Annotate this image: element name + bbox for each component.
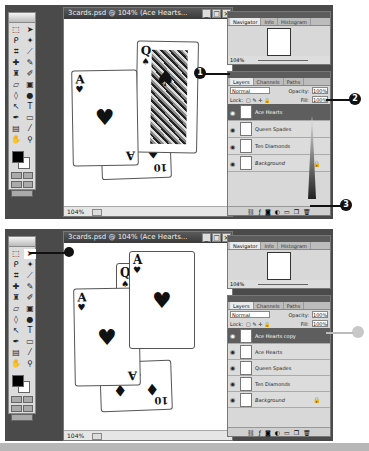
move-tool-icon[interactable]: ➤ [24,25,36,35]
layer-row[interactable]: ◉ Queen Spades [228,360,330,376]
tab-layers[interactable]: Layers [230,78,254,85]
brush-tool-icon[interactable]: ✎ [24,282,36,292]
zoom-tool-icon[interactable]: ⚲ [24,135,36,145]
minimize-button[interactable]: _ [202,9,211,18]
crop-tool-icon[interactable]: ⌗ [10,271,22,281]
quickmask-mode-button[interactable] [23,396,34,403]
opacity-input[interactable]: 100% [312,87,328,94]
layer-row[interactable]: ◉ Background 🔒 [228,392,330,408]
zoom-level[interactable]: 104% [67,208,84,215]
path-select-tool-icon[interactable]: ↖ [10,326,22,336]
notes-tool-icon[interactable]: ▤ [10,124,22,134]
path-select-tool-icon[interactable]: ↖ [10,102,22,112]
eraser-tool-icon[interactable]: ▱ [10,304,22,314]
move-tool-icon[interactable]: ➤ [24,249,36,259]
tab-channels[interactable]: Channels [254,78,284,85]
tab-histogram[interactable]: Histogram [278,18,311,25]
eye-icon[interactable]: ◉ [230,126,237,133]
new-group-icon[interactable]: ▭ [284,428,290,436]
standard-mode-button[interactable] [11,172,22,179]
layer-row[interactable]: ◉ Ace Hearts [228,344,330,360]
gradient-tool-icon[interactable]: ▣ [24,80,36,90]
canvas[interactable]: ♦ ♦ ♦ 10 Q ♠ ♠ A ♥ ♥ A [64,19,232,206]
add-mask-icon[interactable]: ◙ [265,207,271,215]
lock-icons[interactable]: ▢ ✎ ✛ 🔒 [246,97,270,103]
lasso-tool-icon[interactable]: ᑭ [10,36,22,46]
eye-icon[interactable]: ◉ [230,364,237,371]
blur-tool-icon[interactable]: ◊ [10,91,22,101]
new-group-icon[interactable]: ▭ [284,207,290,215]
maximize-button[interactable]: □ [212,9,221,18]
delete-layer-icon[interactable]: 🗑 [303,428,311,436]
type-tool-icon[interactable]: T [24,326,36,336]
eye-icon[interactable]: ◉ [230,143,237,150]
toolbox-header[interactable] [9,13,35,23]
slice-tool-icon[interactable]: ⟋ [24,47,36,57]
eye-icon[interactable]: ◉ [230,396,237,403]
status-menu-button[interactable] [92,433,102,440]
tab-info[interactable]: Info [261,242,277,249]
history-brush-tool-icon[interactable]: ✐ [24,69,36,79]
layer-row[interactable]: ◉ Ten Diamonds [228,376,330,392]
jump-to-imageready-button[interactable] [11,414,33,421]
navigator-zoom[interactable]: 104% [230,57,244,63]
shape-tool-icon[interactable]: ▭ [24,337,36,347]
eyedropper-tool-icon[interactable]: ⁄ [24,124,36,134]
zoom-level[interactable]: 104% [67,432,84,439]
foreground-color-swatch[interactable] [12,151,24,163]
new-layer-icon[interactable]: ❐ [294,428,299,436]
lock-icons[interactable]: ▢ ✎ ✛ 🔒 [246,321,270,327]
status-menu-button[interactable] [92,209,102,216]
foreground-color-swatch[interactable] [12,375,24,387]
eraser-tool-icon[interactable]: ▱ [10,80,22,90]
blend-mode-select[interactable]: Normal [230,311,270,318]
tab-layers[interactable]: Layers [230,302,254,309]
new-layer-icon[interactable]: ❐ [294,207,299,215]
document-title-bar[interactable]: 3cards.psd @ 104% (Ace Hearts... _ □ × [64,8,232,19]
healing-tool-icon[interactable]: ✚ [10,58,22,68]
link-layers-icon[interactable]: ⛓ [247,207,255,215]
tab-navigator[interactable]: Navigator [230,18,261,25]
maximize-button[interactable]: □ [212,233,221,242]
zoom-tool-icon[interactable]: ⚲ [24,359,36,369]
history-brush-tool-icon[interactable]: ✐ [24,293,36,303]
eye-icon[interactable]: ◉ [230,109,237,116]
adjustment-layer-icon[interactable]: ◐ [275,207,280,215]
eye-icon[interactable]: ◉ [230,380,237,387]
pen-tool-icon[interactable]: ✒ [10,337,22,347]
tab-paths[interactable]: Paths [284,302,305,309]
fullscreen-mode-button[interactable] [23,181,34,188]
canvas[interactable]: ♦ ♦ ♦ 10 Q ♠ A ♥ ♥ A A ♥ ♥ [64,243,232,430]
standard-mode-button[interactable] [11,396,22,403]
add-mask-icon[interactable]: ◙ [265,428,271,436]
delete-layer-icon[interactable]: 🗑 [303,207,311,215]
pen-tool-icon[interactable]: ✒ [10,113,22,123]
toolbox-header[interactable] [9,237,35,247]
document-title-bar[interactable]: 3cards.psd @ 104% (Ace Hearts... _ □ × [64,232,232,243]
tab-paths[interactable]: Paths [284,78,305,85]
link-layers-icon[interactable]: ⛓ [247,428,255,436]
navigator-thumbnail[interactable] [267,28,291,56]
jump-to-imageready-button[interactable] [11,190,33,197]
eye-icon[interactable]: ◉ [230,348,237,355]
tab-info[interactable]: Info [261,18,277,25]
hand-tool-icon[interactable]: ✋ [10,135,22,145]
eyedropper-tool-icon[interactable]: ⁄ [24,348,36,358]
layer-style-icon[interactable]: ƒ [259,207,261,215]
layer-row[interactable]: ◉ Background 🔒 [228,155,330,172]
notes-tool-icon[interactable]: ▤ [10,348,22,358]
layer-row[interactable]: ◉ Ace Hearts copy [228,328,330,344]
brush-tool-icon[interactable]: ✎ [24,58,36,68]
marquee-tool-icon[interactable]: ⬚ [10,249,22,259]
blur-tool-icon[interactable]: ◊ [10,315,22,325]
layer-row[interactable]: ◉ Ace Hearts [228,104,330,121]
blend-mode-select[interactable]: Normal [230,87,270,94]
shape-tool-icon[interactable]: ▭ [24,113,36,123]
opacity-input[interactable]: 100% [312,311,328,318]
fullscreen-mode-button[interactable] [23,405,34,412]
magic-wand-tool-icon[interactable]: ✦ [24,260,36,270]
quickmask-mode-button[interactable] [23,172,34,179]
adjustment-layer-icon[interactable]: ◐ [275,428,280,436]
screen-mode-button[interactable] [11,181,22,188]
tab-navigator[interactable]: Navigator [230,242,261,249]
